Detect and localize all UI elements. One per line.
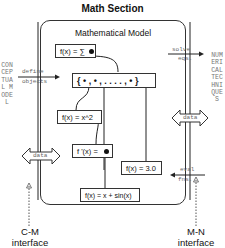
connector-lines <box>0 0 225 248</box>
mn-interface-line2: interface <box>174 237 218 248</box>
constant-function-box: f(x) = 3.0 <box>121 161 162 175</box>
objects-label: objects <box>22 78 47 85</box>
cm-interface-line1: C-M <box>8 226 52 237</box>
solve-label: solve <box>172 46 190 53</box>
square-function-box: f(x) = x^2 <box>57 110 102 124</box>
derivative-function-box: f '(x) = <box>72 144 113 158</box>
connector-dot <box>104 149 109 154</box>
sum-function-label: f(x) = ∑ <box>60 47 85 56</box>
data-left-label: data <box>33 152 47 159</box>
numerical-techniques-label: NUMERICAL TECHNIQUES <box>211 52 223 104</box>
object-set-label: { • , • , . . . . , • } <box>77 76 138 86</box>
mn-interface-label: M-N interface <box>174 226 218 248</box>
sum-function-box: f(x) = ∑ <box>55 44 96 58</box>
eqs-label: eqs. <box>178 55 192 62</box>
constant-function-label: f(x) = 3.0 <box>126 164 156 173</box>
mn-interface-line1: M-N <box>174 226 218 237</box>
square-function-label: f(x) = x^2 <box>62 113 93 122</box>
define-label: define <box>22 68 44 75</box>
sine-function-box: f(x) = x + sin(x) <box>80 188 140 202</box>
sine-function-label: f(x) = x + sin(x) <box>85 192 132 199</box>
connector-dot <box>89 49 94 54</box>
cm-interface-line2: interface <box>8 237 52 248</box>
derivative-function-label: f '(x) = <box>77 147 98 156</box>
conceptual-model-label: CONCEPTUAL MODEL <box>1 62 13 106</box>
data-right-label: data <box>183 114 197 121</box>
fns-label: fns. <box>178 176 192 183</box>
eval-label: eval <box>180 166 194 173</box>
cm-interface-label: C-M interface <box>8 226 52 248</box>
object-set-box: { • , • , . . . . , • } <box>72 73 156 88</box>
